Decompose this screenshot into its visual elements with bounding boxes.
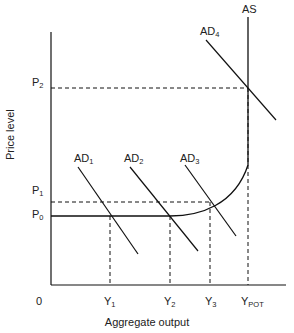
diagram-canvas bbox=[0, 0, 294, 333]
p2-label: P2 bbox=[32, 76, 44, 92]
ad2-curve bbox=[130, 167, 198, 251]
as-curve bbox=[51, 17, 248, 216]
ad1-curve bbox=[78, 167, 138, 254]
as-label: AS bbox=[242, 3, 257, 15]
ad4-label: AD4 bbox=[200, 25, 219, 41]
ypot-label: YPOT bbox=[241, 295, 264, 311]
y-axis-label: Price level bbox=[4, 109, 16, 160]
origin-label: 0 bbox=[36, 295, 42, 307]
x-axis-label: Aggregate output bbox=[0, 316, 294, 328]
ad2-label: AD2 bbox=[124, 152, 143, 168]
p1-label: P1 bbox=[32, 184, 44, 200]
y2-label: Y2 bbox=[164, 295, 176, 311]
ad4-curve bbox=[206, 40, 276, 120]
y1-label: Y1 bbox=[104, 295, 116, 311]
ad1-label: AD1 bbox=[74, 152, 93, 168]
ad3-label: AD3 bbox=[180, 152, 199, 168]
y3-label: Y3 bbox=[205, 295, 217, 311]
p0-label: P0 bbox=[32, 208, 44, 224]
